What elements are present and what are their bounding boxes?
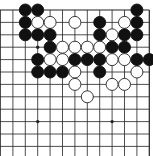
white-stone <box>69 78 81 90</box>
black-stone <box>32 54 44 66</box>
white-stone <box>69 41 81 53</box>
black-stone <box>19 4 31 16</box>
white-stone <box>81 41 93 53</box>
black-stone <box>143 54 153 66</box>
black-stone <box>44 41 56 53</box>
black-stone <box>57 66 69 78</box>
black-stone <box>119 29 131 41</box>
white-stone <box>106 78 118 90</box>
white-stone <box>57 54 69 66</box>
black-stone <box>32 4 44 16</box>
white-stone <box>119 16 131 28</box>
white-stone <box>44 54 56 66</box>
white-stone <box>69 66 81 78</box>
star-point <box>36 120 39 123</box>
white-stone <box>119 54 131 66</box>
white-stone <box>69 16 81 28</box>
white-stone <box>106 54 118 66</box>
black-stone <box>19 29 31 41</box>
black-stone <box>44 29 56 41</box>
black-stone <box>94 66 106 78</box>
white-stone <box>32 16 44 28</box>
black-stone <box>131 16 143 28</box>
star-point <box>36 46 39 49</box>
black-stone <box>106 41 118 53</box>
black-stone <box>119 41 131 53</box>
black-stone <box>131 4 143 16</box>
black-stone <box>131 54 143 66</box>
white-stone <box>57 41 69 53</box>
white-stone <box>106 29 118 41</box>
go-board[interactable] <box>0 0 153 156</box>
black-stone <box>81 54 93 66</box>
star-point <box>110 120 113 123</box>
black-stone <box>44 66 56 78</box>
black-stone <box>69 54 81 66</box>
black-stone <box>32 66 44 78</box>
white-stone <box>44 16 56 28</box>
black-stone <box>131 29 143 41</box>
stones <box>19 4 153 103</box>
black-stone <box>19 16 31 28</box>
black-stone <box>94 54 106 66</box>
white-stone <box>131 66 143 78</box>
black-stone <box>32 29 44 41</box>
black-stone <box>94 29 106 41</box>
white-stone <box>119 78 131 90</box>
go-board-canvas[interactable] <box>0 0 153 156</box>
black-stone <box>94 16 106 28</box>
white-stone <box>81 91 93 103</box>
white-stone <box>94 41 106 53</box>
